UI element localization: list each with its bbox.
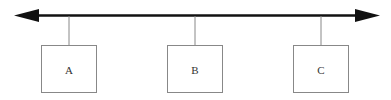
node-label-b: B bbox=[167, 64, 223, 76]
right-arrowhead-icon bbox=[355, 9, 380, 22]
node-label-c: C bbox=[293, 64, 349, 76]
node-label-a: A bbox=[41, 64, 97, 76]
left-arrowhead-icon bbox=[14, 9, 39, 22]
bus-diagram bbox=[0, 0, 391, 100]
